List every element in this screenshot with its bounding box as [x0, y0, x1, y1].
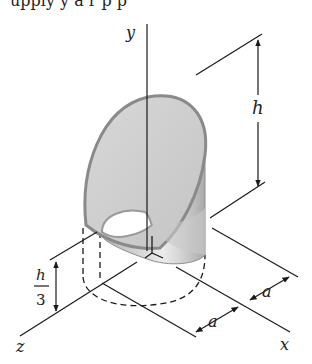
- top-text-fragment: upply y a r p p: [10, 0, 127, 10]
- x-axis-label: x: [280, 335, 289, 354]
- height-dimension: [196, 34, 265, 218]
- base-offset-numerator: h: [36, 266, 46, 284]
- cylindrical-shell: [85, 96, 206, 264]
- z-axis-label: z: [15, 337, 25, 356]
- a-label-2: a: [262, 282, 272, 301]
- a-label-1: a: [208, 312, 218, 331]
- cylindrical-shell-diagram: upply y a r p p y z x h: [0, 0, 312, 364]
- base-offset-dimension: [50, 232, 97, 311]
- x-axis: [176, 267, 290, 332]
- height-label: h: [252, 97, 264, 118]
- base-offset-denominator: 3: [36, 291, 46, 309]
- y-axis-label: y: [125, 23, 136, 42]
